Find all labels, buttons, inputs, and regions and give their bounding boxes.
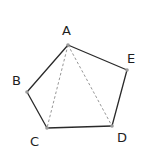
edge-bc — [27, 92, 47, 128]
vertex-d — [110, 124, 114, 128]
diagonal-ad — [68, 45, 112, 126]
vertex-b — [25, 90, 29, 94]
vertex-c — [45, 126, 49, 130]
edge-cd — [47, 126, 112, 128]
edge-de — [112, 70, 127, 126]
labels-group: ABCDE — [12, 23, 135, 149]
vertex-label-c: C — [30, 134, 39, 149]
edge-ea — [68, 45, 127, 70]
edges-group — [27, 45, 127, 128]
vertex-label-d: D — [117, 130, 127, 145]
vertex-label-e: E — [127, 51, 135, 66]
pentagon-diagram: ABCDE — [0, 0, 144, 153]
vertex-label-b: B — [12, 73, 21, 88]
vertex-label-a: A — [62, 23, 71, 38]
vertex-a — [66, 43, 70, 47]
vertex-e — [125, 68, 129, 72]
